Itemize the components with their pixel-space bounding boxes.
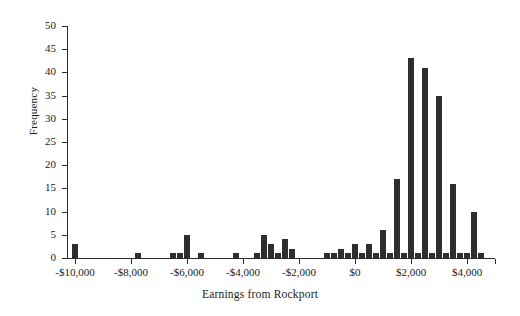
histogram-bar: [457, 253, 464, 258]
histogram-bar: [177, 253, 184, 258]
x-tick: [131, 259, 132, 264]
y-tick: [62, 188, 67, 189]
histogram-bar: [436, 96, 443, 258]
histogram-bar: [415, 253, 422, 258]
histogram-bar: [429, 253, 436, 258]
y-tick-label: 40: [16, 66, 56, 77]
histogram-bar: [331, 253, 338, 258]
histogram-bar: [324, 253, 331, 258]
y-tick: [62, 26, 67, 27]
histogram-bar: [338, 249, 345, 258]
histogram-bar: [450, 184, 457, 258]
histogram-bar: [184, 235, 191, 258]
histogram-bar: [464, 253, 471, 258]
histogram-bar: [471, 212, 478, 258]
y-tick: [62, 49, 67, 50]
y-tick: [62, 212, 67, 213]
y-tick: [62, 235, 67, 236]
histogram-bar: [359, 253, 366, 258]
histogram-bar: [401, 253, 408, 258]
histogram-bar: [261, 235, 268, 258]
histogram-bar: [233, 253, 240, 258]
y-tick-label: 10: [16, 206, 56, 217]
y-tick-label: 15: [16, 182, 56, 193]
histogram-bar: [170, 253, 177, 258]
x-tick: [75, 259, 76, 264]
histogram-bar: [254, 253, 261, 258]
y-tick-label: 5: [16, 229, 56, 240]
x-tick: [299, 259, 300, 264]
histogram-bar: [268, 244, 275, 258]
histogram-bar: [366, 244, 373, 258]
histogram-bar: [289, 249, 296, 258]
histogram-bar: [380, 230, 387, 258]
x-axis-end-tick: [495, 259, 496, 264]
histogram-bar: [422, 68, 429, 258]
histogram-bar: [352, 244, 359, 258]
histogram-chart: Frequency 05101520253035404550 -$10,000-…: [0, 0, 520, 316]
y-tick-label: 50: [16, 20, 56, 31]
histogram-bar: [275, 253, 282, 258]
y-tick-label: 25: [16, 136, 56, 147]
y-tick-label: 20: [16, 159, 56, 170]
y-tick-label: 0: [16, 252, 56, 263]
x-tick: [243, 259, 244, 264]
histogram-bar: [373, 253, 380, 258]
histogram-bar: [408, 58, 415, 258]
y-tick: [62, 96, 67, 97]
x-tick: [467, 259, 468, 264]
histogram-bar: [387, 253, 394, 258]
bar-series: [68, 26, 495, 258]
histogram-bar: [345, 253, 352, 258]
y-tick-label: 35: [16, 90, 56, 101]
histogram-bar: [394, 179, 401, 258]
histogram-bar: [198, 253, 205, 258]
y-tick: [62, 119, 67, 120]
y-tick-label: 30: [16, 113, 56, 124]
y-tick: [62, 72, 67, 73]
histogram-bar: [478, 253, 485, 258]
histogram-bar: [282, 239, 289, 258]
x-axis-label: Earnings from Rockport: [0, 288, 520, 300]
y-tick-label: 45: [16, 43, 56, 54]
x-tick: [187, 259, 188, 264]
histogram-bar: [72, 244, 79, 258]
x-tick: [411, 259, 412, 264]
y-tick: [62, 142, 67, 143]
y-tick: [62, 258, 67, 259]
histogram-bar: [443, 253, 450, 258]
histogram-bar: [135, 253, 142, 258]
x-tick: [355, 259, 356, 264]
y-tick: [62, 165, 67, 166]
x-tick-label: $4,000: [427, 266, 507, 278]
